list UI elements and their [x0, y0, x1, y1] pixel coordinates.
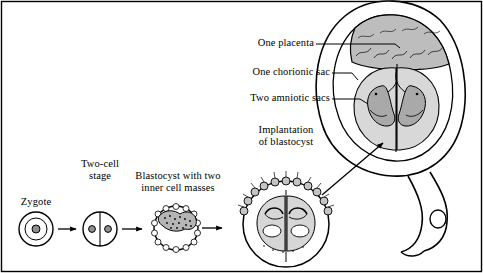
callout-one-placenta: One placenta	[192, 37, 314, 49]
callout-one-chorionic-sac: One chorionic sac	[192, 66, 330, 78]
two-cell-stage-cell	[83, 212, 117, 246]
zygote-cell	[19, 212, 53, 246]
label-blastocyst-line1: Blastocyst with two	[128, 170, 228, 182]
label-zygote: Zygote	[4, 196, 68, 208]
label-two-cell-line2: stage	[62, 170, 138, 182]
label-blastocyst-line2: inner cell masses	[128, 182, 228, 194]
callout-two-amniotic-sacs: Two amniotic sacs	[192, 92, 330, 104]
label-implantation-line2: of blastocyst	[238, 136, 334, 148]
implanted-blastocyst	[238, 171, 334, 267]
figure-canvas: One placenta One chorionic sac Two amnio…	[0, 0, 483, 273]
blastocyst-two-inner-cell-masses	[152, 204, 201, 253]
label-implantation-line1: Implantation	[238, 124, 334, 136]
label-two-cell-line1: Two-cell	[62, 158, 138, 170]
